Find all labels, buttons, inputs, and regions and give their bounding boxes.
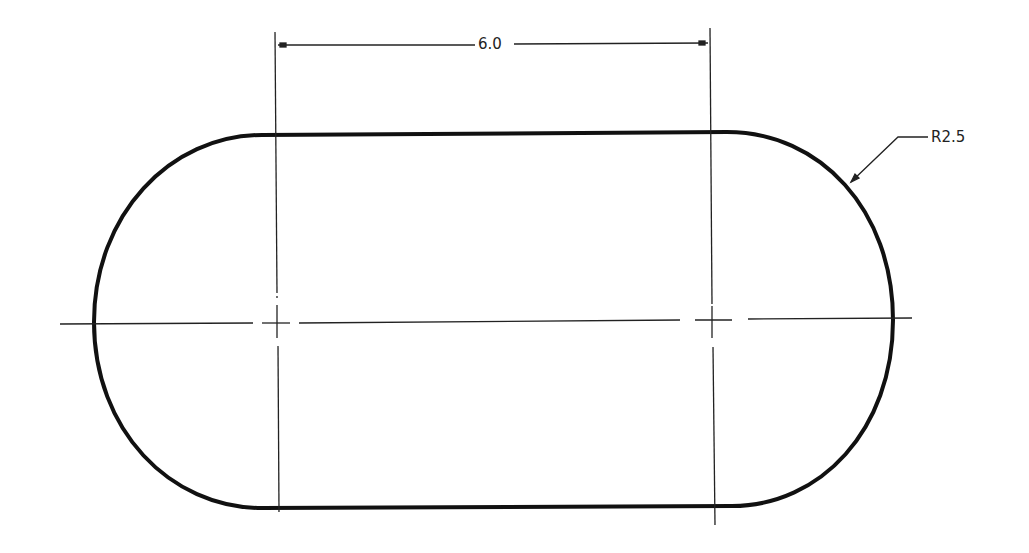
radius-leader bbox=[851, 137, 928, 182]
dimension-label-length: 6.0 bbox=[478, 36, 502, 52]
drawing-canvas: 6.0 R2.5 bbox=[0, 0, 1029, 553]
slot-outline bbox=[94, 132, 893, 508]
right-vertical-centerline bbox=[710, 28, 715, 525]
horizontal-centerline bbox=[60, 318, 912, 324]
left-vertical-centerline bbox=[275, 32, 279, 512]
dimension-label-radius: R2.5 bbox=[931, 129, 965, 145]
